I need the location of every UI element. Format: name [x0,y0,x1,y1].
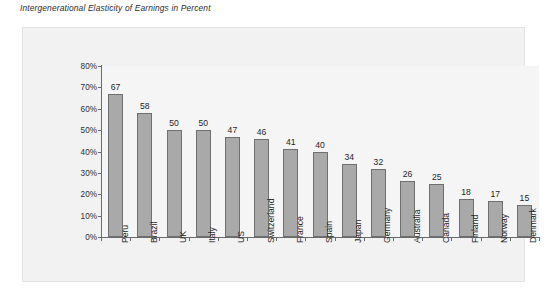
x-axis-category-label: Germany [382,208,392,243]
y-axis-tick-label: 80% [71,62,97,71]
x-axis-category-label: Italy [207,227,217,243]
chart-figure: Intergenerational Elasticity of Earnings… [0,0,547,290]
x-axis-category-label: Norway [499,214,509,243]
y-axis-tick-mark [98,216,101,217]
x-axis-category-label: Canada [441,213,451,243]
x-axis-category-label: Denmark [528,208,538,243]
bar-value-label: 46 [257,127,267,137]
bar [225,137,240,237]
x-axis-tick-mark [451,238,452,241]
x-axis-tick-mark [539,238,540,241]
bar-value-label: 32 [374,157,384,167]
x-axis-category-label: Switzerland [266,199,276,243]
bar [137,113,152,237]
bar-value-label: 50 [169,118,179,128]
y-axis-tick-mark [98,194,101,195]
x-axis-category-label: Peru [120,225,130,243]
x-axis-tick-mark [159,238,160,241]
y-axis-tick-mark [98,66,101,67]
bar-value-label: 50 [198,118,208,128]
x-axis-tick-mark [422,238,423,241]
bar-value-label: 25 [432,172,442,182]
bar-value-label: 34 [344,152,354,162]
x-axis-tick-mark [335,238,336,241]
y-axis-tick-label: 0% [71,233,97,242]
x-axis-tick-mark [364,238,365,241]
bar-value-label: 41 [286,137,296,147]
x-axis-category-label: Spain [324,221,334,243]
x-axis-tick-mark [481,238,482,241]
y-axis-tick-mark [98,173,101,174]
x-axis-category-label: UK [178,231,188,243]
bar-value-label: 40 [315,140,325,150]
x-axis-tick-mark [218,238,219,241]
bar [167,130,182,237]
y-axis-tick-label: 30% [71,168,97,177]
bar-value-label: 15 [520,193,530,203]
x-axis-category-label: France [295,216,305,243]
y-axis-tick-label: 50% [71,126,97,135]
y-axis-tick-label: 20% [71,190,97,199]
chart-title: Intergenerational Elasticity of Earnings… [20,3,211,13]
y-axis-tick-label: 10% [71,211,97,220]
x-axis-tick-mark [101,238,102,241]
y-axis-tick-mark [98,152,101,153]
x-axis-tick-mark [510,238,511,241]
y-axis-tick-mark [98,130,101,131]
y-axis-tick-mark [98,87,101,88]
x-axis-category-label: Brazil [149,222,159,244]
y-axis-tick-label: 40% [71,147,97,156]
bar-value-label: 26 [403,169,413,179]
x-axis-tick-mark [276,238,277,241]
bar [196,130,211,237]
y-axis-tick-mark [98,109,101,110]
x-axis-tick-mark [393,238,394,241]
bar-value-label: 58 [140,101,150,111]
x-axis-tick-mark [247,238,248,241]
x-axis-category-label: US [236,231,246,243]
bar-value-label: 67 [111,82,121,92]
y-axis-tick-label: 60% [71,104,97,113]
x-axis-tick-mark [305,238,306,241]
bar-value-label: 47 [228,125,238,135]
x-axis-category-label: Australia [412,210,422,243]
chart-panel: 80%70%60%50%40%30%20%10%0% 6758505047464… [22,27,525,282]
x-axis-category-label: Japan [353,220,363,243]
x-axis-tick-mark [130,238,131,241]
bar-value-label: 18 [461,187,471,197]
bar [108,94,123,237]
bar-value-label: 17 [490,189,500,199]
y-axis-line [101,65,102,238]
x-axis-tick-mark [189,238,190,241]
y-axis-tick-label: 70% [71,83,97,92]
x-axis-category-label: Finland [470,215,480,243]
